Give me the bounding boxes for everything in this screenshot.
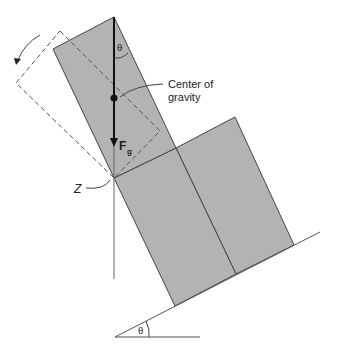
rotation-arrow-icon	[14, 58, 21, 65]
cog-label-line2: gravity	[168, 91, 201, 103]
center-of-gravity-dot	[111, 95, 118, 102]
pivot-label: Z	[73, 182, 82, 196]
cog-label-line1: Center of	[168, 78, 214, 90]
theta-top-label: θ	[117, 41, 122, 53]
pivot-leader-line	[86, 180, 110, 188]
force-label: F	[119, 139, 126, 153]
theta-bottom-arc	[146, 321, 149, 337]
force-label-subscript: g	[127, 147, 132, 156]
tipping-blocks-diagram: Center of gravity θ F g Z θ	[0, 0, 338, 359]
rotation-arc	[18, 35, 40, 60]
theta-bottom-label: θ	[138, 324, 143, 336]
